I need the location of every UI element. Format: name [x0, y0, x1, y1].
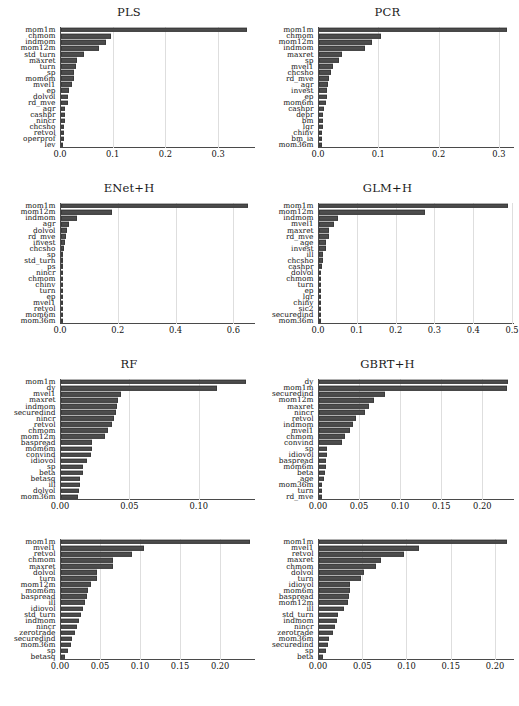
panel-title: GBRT+H	[258, 358, 517, 371]
bar	[319, 570, 364, 574]
bar	[61, 125, 64, 129]
bar	[61, 570, 97, 574]
x-axis-tick-label: 0.05	[353, 661, 371, 671]
chart-panel-pls: PLSmom1mchmomindmommom12mstd_turnmaxrett…	[0, 0, 258, 176]
bar	[319, 564, 376, 568]
bar	[319, 624, 335, 628]
bar	[61, 234, 66, 238]
bar	[61, 643, 71, 647]
bar	[319, 649, 326, 653]
bar	[61, 416, 114, 420]
x-axis-tick-label: 0.0	[53, 149, 66, 159]
panel-title: ENet+H	[0, 182, 258, 195]
bar	[61, 546, 144, 550]
bar	[319, 100, 326, 104]
bar	[61, 52, 84, 56]
bar	[319, 410, 365, 414]
bar	[61, 301, 63, 305]
bar	[61, 264, 63, 268]
bar	[61, 594, 87, 598]
bar	[319, 125, 323, 129]
y-axis-tick-label: mom36m	[2, 318, 58, 324]
bar	[61, 228, 67, 232]
bar	[319, 288, 321, 292]
bar	[319, 404, 369, 408]
bar	[61, 606, 83, 610]
bar	[319, 655, 323, 659]
bar	[319, 34, 381, 38]
bar	[319, 131, 322, 135]
y-axis-labels: mom1mmom12mindmommvel1maxretrd_mveageinv…	[258, 203, 316, 324]
panel-title: PLS	[0, 6, 258, 19]
bar	[319, 594, 349, 598]
bar	[319, 440, 342, 444]
chart-panel-pcr: PCRmom1mchmommom12mindmommaxretspmvel1ch…	[258, 0, 517, 176]
bar	[61, 386, 217, 390]
bar	[61, 434, 105, 438]
bar	[319, 489, 322, 493]
bar	[319, 540, 507, 544]
bar	[319, 246, 326, 250]
bar	[319, 552, 404, 556]
bar	[61, 143, 63, 147]
x-axis-labels: 0.000.050.100.150.20	[318, 660, 514, 674]
bar	[61, 88, 69, 92]
x-axis-tick-label: 0.1	[372, 149, 385, 159]
y-axis-tick-label: mom36m	[2, 494, 58, 500]
bar	[61, 222, 69, 226]
bar	[61, 489, 79, 493]
x-axis-tick-label: 0.00	[309, 661, 327, 671]
bar	[319, 282, 321, 286]
bar	[61, 600, 85, 604]
y-axis-labels: mom1mmvel1retvolmaxretchmomdolvolturnidi…	[258, 539, 316, 660]
bar	[319, 106, 324, 110]
bar	[319, 58, 339, 62]
plot-area	[60, 379, 255, 500]
x-axis-labels: 0.00.20.40.6	[60, 324, 255, 338]
bar	[61, 410, 116, 414]
bar	[319, 307, 321, 311]
x-axis-tick-label: 0.6	[227, 325, 240, 335]
bar	[319, 28, 507, 32]
x-axis-tick-label: 0.20	[211, 661, 229, 671]
chart-panel-untitled-7: mom1mmvel1retvolmaxretchmomdolvolturnidi…	[258, 528, 517, 706]
bar	[61, 564, 113, 568]
plot-area	[318, 379, 514, 500]
panel-title: RF	[0, 358, 258, 371]
bar	[319, 137, 322, 141]
bar	[61, 582, 91, 586]
bar	[319, 630, 333, 634]
bar	[319, 64, 333, 68]
bar-series	[319, 27, 514, 148]
chart-panel-untitled-6: mom1mmvel1retvolchmommaxretdolvolturnmom…	[0, 528, 258, 706]
y-axis-labels: mom1mmvel1retvolchmommaxretdolvolturnmom…	[2, 539, 58, 660]
bar	[61, 118, 65, 122]
plot-area	[60, 203, 255, 324]
x-axis-tick-label: 0.3	[428, 325, 441, 335]
x-axis-tick-label: 0.2	[389, 325, 402, 335]
bar	[319, 643, 328, 647]
x-axis-tick-label: 0.00	[51, 501, 69, 511]
x-axis-tick-label: 0.00	[309, 501, 327, 511]
bar	[319, 434, 345, 438]
y-axis-tick-label: beta	[258, 654, 316, 660]
bar	[319, 294, 321, 298]
bar	[61, 258, 63, 262]
x-axis-tick-label: 0.5	[505, 325, 518, 335]
bar	[319, 470, 325, 474]
bar	[319, 398, 374, 402]
x-axis-tick-label: 0.0	[53, 325, 66, 335]
bar	[61, 380, 246, 384]
bar	[319, 40, 372, 44]
x-axis-tick-label: 0.0	[311, 149, 324, 159]
bar	[61, 495, 78, 499]
x-axis-tick-label: 0.1	[106, 149, 119, 159]
bar	[319, 240, 326, 244]
bar	[319, 588, 350, 592]
bar	[319, 228, 329, 232]
bar	[61, 552, 132, 556]
bar	[319, 582, 350, 586]
plot-area	[60, 27, 255, 148]
bar	[319, 452, 327, 456]
